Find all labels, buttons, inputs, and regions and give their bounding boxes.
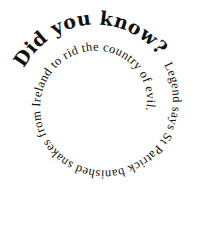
spiral-text: Did you know? Legend says St Patrick ban… [9, 7, 184, 182]
spiral-heading: Did you know? [9, 7, 173, 71]
spiral-svg: Did you know? Legend says St Patrick ban… [0, 0, 200, 246]
spiral-body: Legend says St Patrick banished snakes f… [29, 39, 184, 181]
